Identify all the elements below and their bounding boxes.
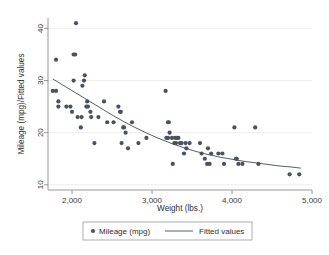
data-point [105,120,109,124]
data-point [136,141,140,145]
x-axis-title: Weight (lbs.) [157,204,203,213]
data-point [122,125,126,129]
scatter-plot-figure: 10203040 2,0003,0004,0005,000 Weight (lb… [0,0,329,255]
data-point [167,120,171,124]
data-point [171,162,175,166]
data-point [220,151,224,155]
data-point [83,73,87,77]
data-point [70,110,74,114]
data-point [182,151,186,155]
chart-canvas: 10203040 2,0003,0004,0005,000 Weight (lb… [0,0,329,255]
x-tick-label-4000: 4,000 [222,196,243,205]
data-point [74,21,78,25]
data-point [166,136,170,140]
data-point [216,151,220,155]
data-point [120,141,124,145]
data-point [68,105,72,109]
y-axis-title: Mileage (mpg)/Fitted values [17,53,26,154]
data-point [180,141,184,145]
data-point [92,141,96,145]
data-point [56,105,60,109]
data-point [203,157,207,161]
data-point [85,99,89,103]
data-point [144,136,148,140]
data-point [73,52,77,56]
data-point [174,141,178,145]
data-point [119,110,123,114]
data-point [76,115,80,119]
legend-label-mileage: Mileage (mpg) [99,227,150,236]
data-point [82,78,86,82]
data-point [88,110,92,114]
data-point [54,58,58,62]
data-point [222,162,226,166]
x-tick-label-2000: 2,000 [62,196,83,205]
y-tick-label-20: 20 [36,128,45,137]
x-tick-label-5000: 5,000 [302,196,323,205]
data-point [198,141,202,145]
data-point [102,99,106,103]
data-point [112,120,116,124]
data-point [116,105,120,109]
data-point [209,151,213,155]
data-point [188,141,192,145]
data-point [240,162,244,166]
data-point [184,146,188,150]
figure-background [0,0,329,255]
data-point [297,172,301,176]
data-point [126,146,130,150]
data-point [232,125,236,129]
y-tick-label-40: 40 [36,23,45,32]
data-point [206,146,210,150]
data-point [164,89,168,93]
data-point [253,125,257,129]
data-point [80,115,84,119]
data-point [184,141,188,145]
legend-marker-mileage [91,229,95,233]
data-point [236,162,240,166]
data-point [200,151,204,155]
data-point [56,99,60,103]
data-point [124,131,128,135]
data-point [235,157,239,161]
y-tick-label-30: 30 [36,76,45,85]
data-point [96,115,100,119]
data-point [89,115,93,119]
data-point [80,84,84,88]
data-point [130,120,134,124]
legend-label-fitted: Fitted values [199,227,244,236]
data-point [54,89,58,93]
data-point [79,125,83,129]
data-point [168,131,172,135]
data-point [86,105,90,109]
data-point [256,162,260,166]
legend: Mileage (mpg) Fitted values [83,222,252,240]
data-point [288,172,292,176]
data-point [72,78,76,82]
data-point [176,136,180,140]
data-point [208,162,212,166]
y-tick-label-10: 10 [36,180,45,189]
data-point [64,105,68,109]
